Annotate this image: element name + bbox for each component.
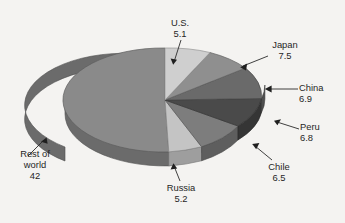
label-us-name: U.S. (158, 17, 202, 28)
label-china: China 6.9 (299, 82, 341, 104)
chart-canvas: Million metric tons of marine fish harve… (0, 0, 345, 223)
label-chile-value: 6.5 (258, 172, 300, 183)
label-russia-value: 5.2 (155, 193, 207, 204)
label-peru: Peru 6.8 (300, 121, 340, 143)
label-japan-name: Japan (261, 39, 309, 50)
label-china-value: 6.9 (299, 93, 341, 104)
label-japan-value: 7.5 (261, 50, 309, 61)
label-rest-value: 42 (4, 170, 66, 181)
label-us-value: 5.1 (158, 28, 202, 39)
arrowhead-china (265, 86, 272, 93)
label-japan: Japan 7.5 (261, 39, 309, 61)
label-rest-name2: world (4, 159, 66, 170)
leader-chile (255, 146, 272, 160)
label-rest-name: Rest of (4, 148, 66, 159)
arrowhead-peru (274, 119, 281, 125)
label-us: U.S. 5.1 (158, 17, 202, 39)
label-peru-name: Peru (300, 121, 340, 132)
label-rest-of-world: Rest of world 42 (4, 148, 66, 182)
leader-peru (277, 122, 299, 129)
label-peru-value: 6.8 (300, 132, 340, 143)
label-russia: Russia 5.2 (155, 182, 207, 204)
label-chile-name: Chile (258, 161, 300, 172)
label-china-name: China (299, 82, 341, 93)
slice-side-china (262, 85, 265, 113)
label-russia-name: Russia (155, 182, 207, 193)
label-chile: Chile 6.5 (258, 161, 300, 183)
